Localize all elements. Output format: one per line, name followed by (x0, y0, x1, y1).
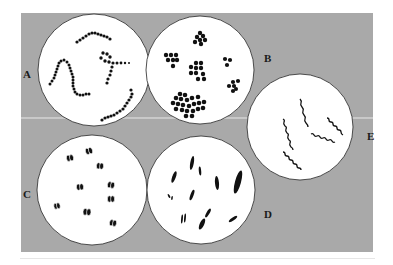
label-e: E (367, 130, 374, 142)
bacteria-morphology-diagram: A B C D E (0, 0, 393, 265)
label-a: A (23, 68, 31, 80)
label-c: C (23, 188, 31, 200)
bottom-rule (20, 258, 375, 259)
label-b: B (264, 52, 272, 64)
panel-e-spirals (247, 74, 353, 180)
label-d: D (264, 208, 272, 220)
panel-d-rods (147, 136, 255, 244)
panel-a-chains (38, 14, 150, 126)
panel-c-diplococci (37, 135, 147, 245)
panel-b-clusters (146, 16, 254, 124)
